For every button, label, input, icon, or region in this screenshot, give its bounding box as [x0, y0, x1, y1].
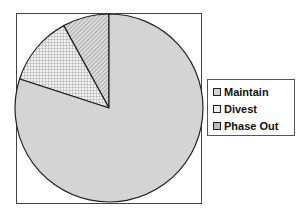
legend-swatch-icon — [213, 88, 221, 96]
legend-swatch-icon — [213, 122, 221, 130]
legend: Maintain Divest Phase Out — [207, 79, 295, 136]
legend-swatch-icon — [213, 105, 221, 113]
legend-item-maintain: Maintain — [213, 86, 269, 98]
legend-item-divest: Divest — [213, 103, 257, 115]
legend-item-phase-out: Phase Out — [213, 120, 278, 132]
